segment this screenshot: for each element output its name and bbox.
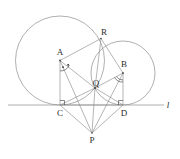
dot-R xyxy=(100,38,102,40)
angle-marks-group xyxy=(60,64,123,105)
circles-group xyxy=(16,16,156,105)
segment-Q-P xyxy=(92,88,95,133)
segments-group xyxy=(60,39,123,134)
dot-B xyxy=(122,72,124,74)
label-point-B: B xyxy=(121,59,127,69)
label-line-l: l xyxy=(167,100,170,110)
angle-mark-B-inner xyxy=(117,77,123,81)
segment-D-P xyxy=(92,105,123,133)
label-point-P: P xyxy=(89,135,94,145)
geometry-figure: A B C D Q R P l xyxy=(0,0,180,159)
angle-dot-A-2 xyxy=(67,64,69,66)
segment-C-P xyxy=(60,105,92,133)
labels-group: A B C D Q R P l xyxy=(57,27,170,145)
label-point-Q: Q xyxy=(93,78,100,88)
segment-C-Q xyxy=(60,88,95,105)
segment-A-Q xyxy=(60,61,95,89)
segment-A-P xyxy=(60,61,92,134)
figure-canvas: A B C D Q R P l xyxy=(0,0,180,159)
dot-P xyxy=(91,132,93,134)
dot-A xyxy=(59,60,61,62)
angle-dot-A-1 xyxy=(62,66,64,68)
label-point-R: R xyxy=(101,27,107,37)
angle-mark-A xyxy=(60,65,70,71)
label-point-D: D xyxy=(121,108,128,118)
label-point-A: A xyxy=(57,47,64,57)
label-point-C: C xyxy=(57,108,63,118)
vertex-dots-group xyxy=(59,38,124,134)
